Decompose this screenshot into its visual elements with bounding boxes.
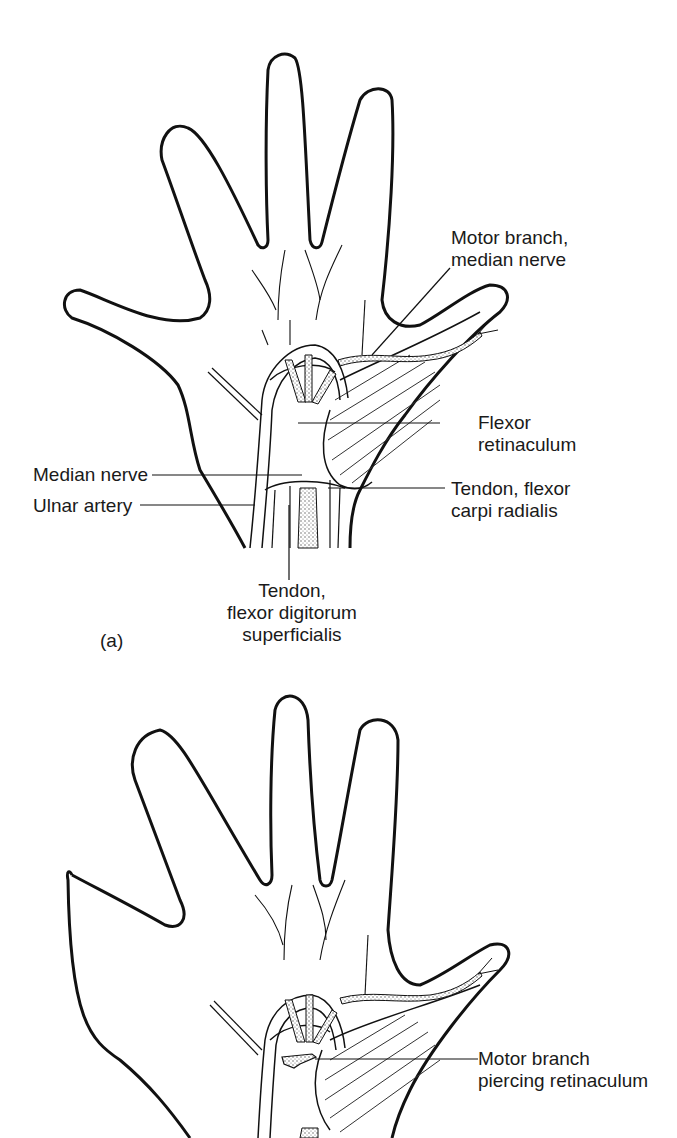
hand-outline	[67, 696, 508, 1138]
label-line: piercing retinaculum	[478, 1070, 648, 1092]
label-line: Motor branch	[478, 1048, 648, 1070]
label-motor-branch-piercing-retinaculum: Motor branch piercing retinaculum	[478, 1048, 648, 1092]
hand-illustration-b	[0, 0, 677, 1138]
anatomy-figure: Motor branch, median nerve Flexor retina…	[0, 0, 677, 1138]
